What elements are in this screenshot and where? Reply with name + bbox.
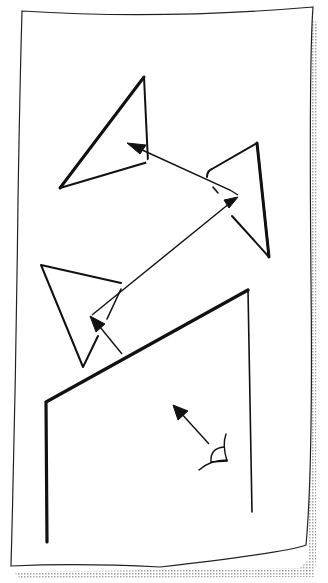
sketch-canvas xyxy=(0,0,328,583)
paper-sheet xyxy=(11,7,313,567)
